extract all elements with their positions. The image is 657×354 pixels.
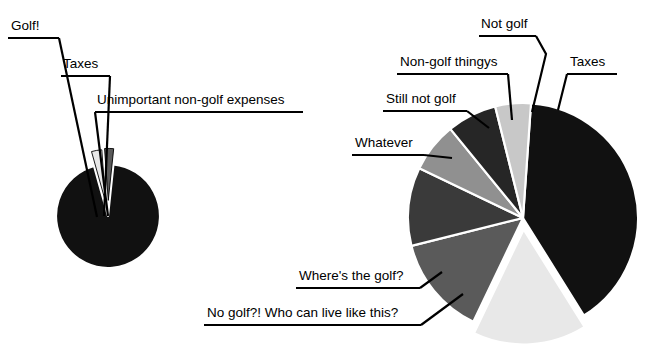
- callout-label-text: Taxes: [570, 54, 606, 69]
- callout-label-text: Unimportant non-golf expenses: [97, 92, 285, 107]
- callout-label-text: Still not golf: [386, 91, 456, 106]
- pie-chart-figure: Golf!TaxesUnimportant non-golf expenses …: [0, 0, 657, 354]
- callout-label-text: Non-golf thingys: [400, 54, 498, 69]
- chart-canvas: Golf!TaxesUnimportant non-golf expenses …: [0, 0, 657, 354]
- callout-label-text: Taxes: [63, 56, 99, 71]
- callout-label-text: Golf!: [11, 18, 40, 33]
- callout-label-text: No golf?! Who can live like this?: [207, 305, 398, 320]
- callout-label-text: Not golf: [481, 16, 528, 31]
- callout-label-text: Whatever: [355, 135, 413, 150]
- callout-label-text: Where's the golf?: [299, 268, 404, 283]
